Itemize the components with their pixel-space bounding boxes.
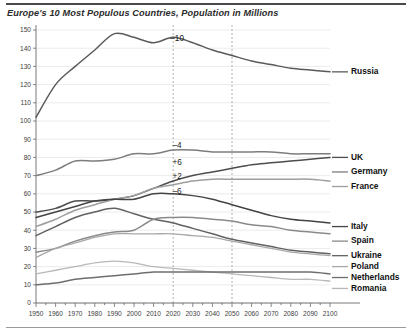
y-tick-label: 20 bbox=[24, 263, 32, 270]
x-tick-label: 2080 bbox=[283, 310, 298, 317]
series-line-ukraine bbox=[36, 208, 330, 254]
y-tick-label: 50 bbox=[24, 208, 32, 215]
annotation-6: +6 bbox=[172, 158, 182, 167]
y-tick-label: 130 bbox=[20, 63, 31, 70]
y-tick-label: 70 bbox=[24, 172, 32, 179]
y-tick-label: 140 bbox=[20, 45, 31, 52]
x-tick-label: 2060 bbox=[244, 310, 259, 317]
y-axis-ticks: 0102030405060708090100110120130140150 bbox=[20, 26, 36, 306]
series-line-france bbox=[36, 179, 330, 226]
series-line-russia bbox=[36, 33, 330, 117]
x-tick-label: 2000 bbox=[127, 310, 142, 317]
y-tick-label: 0 bbox=[27, 299, 31, 306]
line-chart-svg: 0102030405060708090100110120130140150 19… bbox=[0, 0, 412, 335]
x-tick-label: 2050 bbox=[225, 310, 240, 317]
x-axis-ticks: 1950196019701980199020002010202020302040… bbox=[29, 303, 338, 317]
y-tick-label: 100 bbox=[20, 117, 31, 124]
x-tick-label: 2040 bbox=[205, 310, 220, 317]
x-tick-label: 1980 bbox=[87, 310, 102, 317]
y-tick-label: 120 bbox=[20, 81, 31, 88]
legend: RussiaUKGermanyFranceItalySpainUkrainePo… bbox=[332, 66, 400, 293]
legend-label-italy: Italy bbox=[351, 221, 368, 231]
x-tick-label: 1950 bbox=[29, 310, 44, 317]
series-line-germany bbox=[36, 150, 330, 176]
x-tick-label: 1990 bbox=[107, 310, 122, 317]
x-tick-label: 2090 bbox=[303, 310, 318, 317]
chart-plot-area: 0102030405060708090100110120130140150 19… bbox=[0, 0, 412, 335]
x-tick-label: 2020 bbox=[166, 310, 181, 317]
annotations: –10–4+6+2–6 bbox=[170, 34, 184, 196]
y-tick-label: 30 bbox=[24, 245, 32, 252]
y-tick-label: 60 bbox=[24, 190, 32, 197]
series-line-uk bbox=[36, 157, 330, 212]
x-tick-label: 1960 bbox=[48, 310, 63, 317]
gridlines bbox=[36, 30, 330, 303]
x-tick-label: 2070 bbox=[264, 310, 279, 317]
legend-label-russia: Russia bbox=[351, 66, 379, 76]
legend-label-france: France bbox=[351, 181, 379, 191]
y-tick-label: 110 bbox=[20, 99, 31, 106]
footer-divider bbox=[6, 327, 406, 328]
legend-label-romania: Romania bbox=[351, 283, 387, 293]
legend-label-poland: Poland bbox=[351, 261, 379, 271]
annotation-4: –4 bbox=[173, 141, 183, 150]
x-tick-label: 2030 bbox=[185, 310, 200, 317]
series-line-poland bbox=[36, 234, 330, 258]
legend-label-netherlands: Netherlands bbox=[351, 272, 400, 282]
x-tick-label: 2010 bbox=[146, 310, 161, 317]
legend-label-uk: UK bbox=[351, 152, 363, 162]
y-tick-label: 80 bbox=[24, 154, 32, 161]
annotation-6: –6 bbox=[173, 187, 183, 196]
annotation-10: –10 bbox=[170, 34, 184, 43]
x-tick-label: 1970 bbox=[68, 310, 83, 317]
legend-label-ukraine: Ukraine bbox=[351, 250, 382, 260]
x-tick-label: 2100 bbox=[323, 310, 338, 317]
annotation-2: +2 bbox=[172, 172, 182, 181]
data-series bbox=[36, 33, 330, 285]
legend-label-germany: Germany bbox=[351, 166, 388, 176]
legend-label-spain: Spain bbox=[351, 235, 374, 245]
y-tick-label: 90 bbox=[24, 136, 32, 143]
chart-screenshot: Europe's 10 Most Populous Countries, Pop… bbox=[0, 0, 412, 335]
y-tick-label: 40 bbox=[24, 227, 32, 234]
y-tick-label: 150 bbox=[20, 26, 31, 33]
y-tick-label: 10 bbox=[24, 281, 32, 288]
